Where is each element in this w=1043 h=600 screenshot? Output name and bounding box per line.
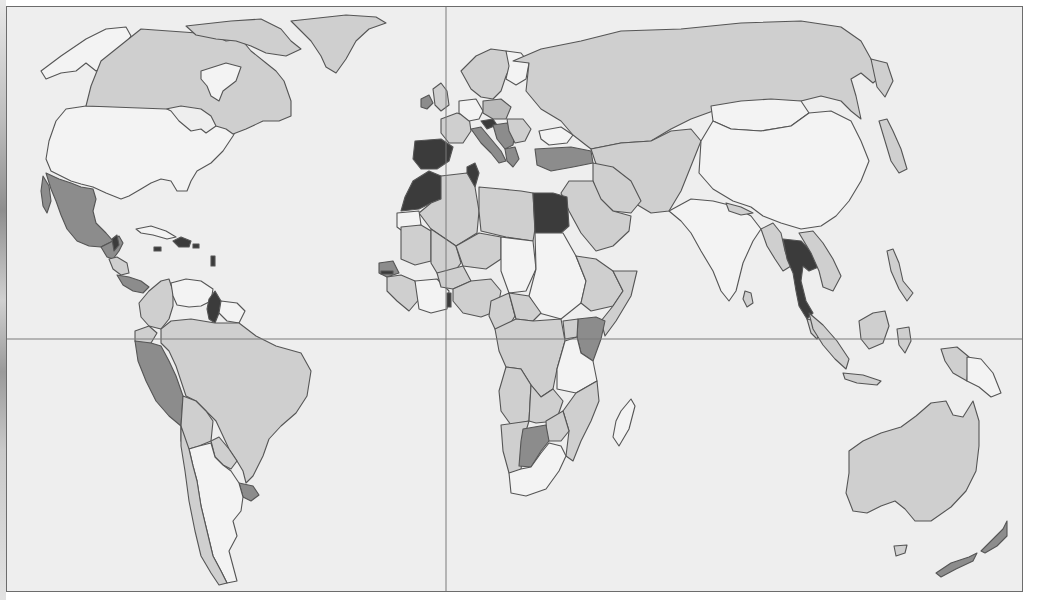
- region-nicaragua: [109, 257, 129, 275]
- region-uk: [433, 83, 449, 111]
- region-egypt: [533, 193, 569, 233]
- region-borneo: [859, 311, 889, 349]
- region-sulawesi: [897, 327, 911, 353]
- region-jamaica: [154, 247, 161, 251]
- region-greenland: [291, 15, 386, 73]
- region-poland-czech: [483, 99, 511, 119]
- region-ireland: [421, 95, 433, 109]
- region-greece: [505, 147, 519, 167]
- region-tasmania: [894, 545, 907, 556]
- region-togo: [447, 293, 451, 307]
- region-cuba: [136, 226, 176, 239]
- world-map: [7, 7, 1023, 592]
- region-japan: [879, 119, 907, 173]
- region-sumatra: [809, 313, 849, 369]
- region-scandinavia: [461, 49, 513, 99]
- region-sri-lanka: [743, 291, 753, 307]
- region-new-zealand-south: [936, 553, 977, 577]
- region-venezuela: [171, 279, 213, 307]
- region-lesser-antilles: [211, 256, 215, 266]
- region-madagascar: [613, 399, 635, 446]
- region-gambia: [381, 271, 393, 274]
- region-mozambique: [563, 381, 599, 461]
- region-new-guinea-west: [941, 347, 969, 381]
- region-puerto-rico: [193, 244, 199, 248]
- world-map-frame: [6, 6, 1023, 592]
- region-senegal: [379, 261, 399, 277]
- region-new-zealand-north: [981, 521, 1007, 553]
- region-suriname-guiana: [219, 301, 245, 323]
- region-sudan: [529, 233, 586, 319]
- region-spain-portugal: [413, 139, 453, 169]
- region-libya: [479, 187, 535, 241]
- region-turkey: [535, 147, 593, 171]
- region-java: [843, 373, 881, 385]
- region-costa-rica-panama: [117, 275, 149, 293]
- region-papua-new-guinea: [967, 357, 1001, 397]
- region-philippines: [887, 249, 913, 301]
- region-uganda: [563, 319, 578, 339]
- region-australia: [846, 401, 979, 521]
- region-hispaniola: [173, 237, 191, 247]
- region-mauritania: [401, 225, 431, 265]
- region-chad: [501, 237, 536, 293]
